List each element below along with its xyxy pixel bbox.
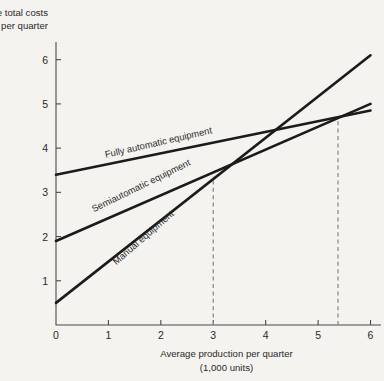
x-tick-label: 4 <box>263 329 269 341</box>
x-tick-label: 6 <box>368 329 374 341</box>
x-axis-title-line1: Average production per quarter <box>160 348 293 359</box>
series-label-manual-equipment: Manual equipment <box>110 208 176 267</box>
chart-canvas: 0123456123456 Manual equipmentSemiautoma… <box>0 0 384 381</box>
y-tick-label: 2 <box>42 231 48 243</box>
x-tick-label: 1 <box>105 329 111 341</box>
y-tick-label: 5 <box>42 98 48 110</box>
breakeven-guides <box>213 117 338 325</box>
x-tick-label: 3 <box>210 329 216 341</box>
x-tick-label: 2 <box>158 329 164 341</box>
x-tick-label: 5 <box>315 329 321 341</box>
cost-comparison-chart: 0123456123456 Manual equipmentSemiautoma… <box>0 0 384 381</box>
x-tick-label: 0 <box>53 329 59 341</box>
tick-labels: 0123456123456 <box>42 54 373 341</box>
y-tick-label: 6 <box>42 54 48 66</box>
y-tick-label: 4 <box>42 142 48 154</box>
x-axis-title-line2: (1,000 units) <box>200 362 253 373</box>
series-line-fully-automatic-equipment <box>56 111 371 175</box>
y-tick-label: 1 <box>42 275 48 287</box>
y-tick-label: 3 <box>42 186 48 198</box>
y-axis-title-line2: per quarter <box>1 20 49 31</box>
y-axis-title-line1: Average total costs <box>0 7 48 18</box>
